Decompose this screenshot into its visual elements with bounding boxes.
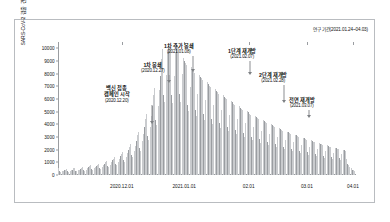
y-axis-tick-mark <box>56 124 59 125</box>
chart-annotation: 백신 접종캠페인 시작(2020.12.20) <box>104 85 130 104</box>
annotation-date: (2021.02.28) <box>259 78 287 84</box>
annotation-marker-arrowhead <box>248 72 252 75</box>
annotation-date: (2020.12.20) <box>104 98 130 104</box>
annotation-marker-stem <box>250 61 251 72</box>
x-axis-tick-label: 2020.12.01 <box>110 184 133 189</box>
x-axis-tick-label: 04.01 <box>347 184 359 189</box>
x-axis-tick-mark <box>307 42 308 45</box>
annotation-marker-arrow-icon <box>166 75 172 83</box>
x-axis-tick-mark <box>353 42 354 45</box>
chart-annotation: 1차 추가 봉쇄(2021.01.08) <box>164 43 194 55</box>
y-axis-tick-mark <box>56 162 59 163</box>
annotation-marker-arrow-icon <box>149 105 155 124</box>
annotation-title-line2: 캠페인 시작 <box>104 91 130 97</box>
y-axis-tick-mark <box>56 111 59 112</box>
chart-annotation: 1단계 재개방(2021.02.07) <box>228 48 256 60</box>
annotation-date: (2021.03.07) <box>289 103 315 109</box>
annotation-marker-stem <box>193 56 194 69</box>
x-axis-tick-mark <box>122 42 123 45</box>
x-axis-tick-label: 03.01 <box>301 184 313 189</box>
annotation-marker-arrowhead <box>150 121 154 124</box>
x-axis-tick-label: 2021.01.01 <box>172 184 195 189</box>
y-axis-tick-mark <box>56 61 59 62</box>
annotation-marker-arrowhead <box>167 80 171 83</box>
annotation-marker-arrow-icon <box>190 56 196 72</box>
y-axis-tick-mark <box>56 86 59 87</box>
chart-annotation: 2단계 재개방(2021.02.28) <box>259 72 287 84</box>
y-axis-tick-mark <box>56 137 59 138</box>
chart-figure: 연구 기간(2021.01.24~04.03) SARS-CoV-2 검출 건수… <box>14 19 375 203</box>
annotation-marker-arrow-icon <box>306 110 312 118</box>
bar <box>354 171 355 175</box>
annotation-date: (2020.12.27) <box>141 68 165 74</box>
chart-annotation: 1차 봉쇄(2020.12.27) <box>141 62 165 74</box>
annotation-marker-arrowhead <box>191 69 195 72</box>
y-axis-tick-mark <box>56 149 59 150</box>
annotation-marker-arrowhead <box>307 115 311 118</box>
x-axis-tick-label: 02.01 <box>243 184 255 189</box>
chart-annotation: 전면 재개방(2021.03.07) <box>289 97 315 109</box>
y-axis-tick-mark <box>56 73 59 74</box>
y-axis-tick-mark <box>56 99 59 100</box>
annotation-date: (2021.02.07) <box>228 54 256 60</box>
annotation-marker-arrow-icon <box>281 85 287 103</box>
annotation-marker-arrow-icon <box>247 61 253 75</box>
x-axis-tick-mark <box>249 42 250 45</box>
annotation-marker-stem <box>152 105 153 121</box>
annotation-date: (2021.01.08) <box>164 49 194 55</box>
y-axis-tick-mark <box>56 48 59 49</box>
annotation-marker-stem <box>283 85 284 100</box>
y-axis-label: SARS-CoV-2 검출 건수 <box>18 0 29 70</box>
study-period-note: 연구 기간(2021.01.24~04.03) <box>313 26 368 32</box>
annotation-marker-arrowhead <box>282 100 286 103</box>
